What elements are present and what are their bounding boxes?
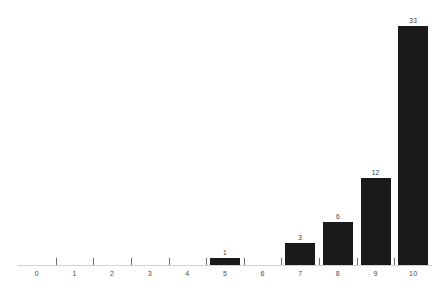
x-axis-tick-label: 7 xyxy=(281,268,319,280)
x-axis-tick-mark xyxy=(93,258,94,265)
x-axis-tick-label: 10 xyxy=(394,268,432,280)
x-axis-tick-mark xyxy=(56,258,57,265)
bar-slot: 33 xyxy=(394,10,432,265)
x-axis-tick-label: 5 xyxy=(206,268,244,280)
x-axis-tick-label: 0 xyxy=(18,268,56,280)
bar-value-label: 6 xyxy=(336,213,340,221)
x-axis-tick-mark xyxy=(169,258,170,265)
bar-slot xyxy=(244,10,282,265)
bar-value-label: 12 xyxy=(372,169,380,177)
x-axis-tick-label: 1 xyxy=(56,268,94,280)
x-axis-line xyxy=(18,265,432,266)
bar-slot xyxy=(18,10,56,265)
x-axis-tick-label: 2 xyxy=(93,268,131,280)
x-axis-tick-mark xyxy=(319,258,320,265)
x-axis-tick-mark xyxy=(394,258,395,265)
x-axis-tick-mark xyxy=(206,258,207,265)
x-axis-tick-mark xyxy=(357,258,358,265)
bar[interactable] xyxy=(398,26,428,265)
x-axis-tick-label: 3 xyxy=(131,268,169,280)
x-axis-tick-mark xyxy=(131,258,132,265)
x-axis-tick-label: 9 xyxy=(357,268,395,280)
bar[interactable] xyxy=(285,243,315,265)
bar-value-label: 3 xyxy=(298,234,302,242)
bar-slot xyxy=(93,10,131,265)
bar[interactable] xyxy=(210,258,240,265)
x-axis-tick-labels: 012345678910 xyxy=(18,268,432,284)
bar-chart: 1361233 012345678910 xyxy=(0,0,443,296)
bar-slot xyxy=(169,10,207,265)
bar-slot: 6 xyxy=(319,10,357,265)
bar-slot xyxy=(131,10,169,265)
bar-slot xyxy=(56,10,94,265)
bar-value-label: 1 xyxy=(223,249,227,257)
bar-slot: 12 xyxy=(357,10,395,265)
x-axis-tick-label: 8 xyxy=(319,268,357,280)
x-axis-tick-label: 4 xyxy=(169,268,207,280)
bar-slot: 1 xyxy=(206,10,244,265)
x-axis-tick-mark xyxy=(244,258,245,265)
bar-slot: 3 xyxy=(281,10,319,265)
bar-value-label: 33 xyxy=(409,17,417,25)
bar[interactable] xyxy=(361,178,391,265)
plot-area: 1361233 xyxy=(18,10,432,265)
x-axis-tick-label: 6 xyxy=(244,268,282,280)
bar[interactable] xyxy=(323,222,353,265)
x-axis-tick-mark xyxy=(281,258,282,265)
